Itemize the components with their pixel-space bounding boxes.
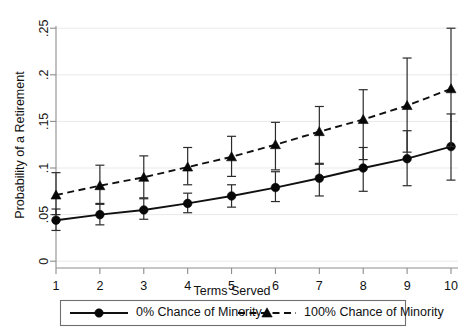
chart-legend: 0% Chance of Minority 100% Chance of Min… xyxy=(61,301,445,326)
x-tick-label: 3 xyxy=(140,279,147,293)
chart-canvas: .25 .2 .15 .1 .05 0 Probability of a Ret… xyxy=(0,0,470,336)
legend-item-1[interactable]: 100% Chance of Minority xyxy=(238,305,444,319)
y-tick-label: .05 xyxy=(37,206,51,223)
y-tick-labels: .25 .2 .15 .1 .05 0 xyxy=(37,19,51,264)
y-tick-label: .2 xyxy=(37,70,51,80)
x-tick-label: 2 xyxy=(96,279,103,293)
legend-circle-marker-icon xyxy=(95,309,103,317)
data-point-triangle xyxy=(227,152,237,161)
y-axis-title: Probability of a Retirement xyxy=(13,71,27,219)
series-solid xyxy=(52,114,456,231)
x-axis-title: Terms Served xyxy=(193,284,270,298)
x-tick-label: 9 xyxy=(404,279,411,293)
data-point-triangle xyxy=(446,84,456,93)
x-tick-label: 7 xyxy=(316,279,323,293)
x-tick-label: 8 xyxy=(360,279,367,293)
data-point-circle xyxy=(271,183,280,192)
x-tick-label: 4 xyxy=(184,279,191,293)
data-point-circle xyxy=(227,192,236,201)
data-point-circle xyxy=(52,216,61,225)
y-tick-label: 0 xyxy=(37,258,51,265)
chart-figure: .25 .2 .15 .1 .05 0 Probability of a Ret… xyxy=(0,0,470,336)
y-tick-label: .15 xyxy=(37,113,51,130)
data-point-triangle xyxy=(270,140,280,149)
y-tick-label: .25 xyxy=(37,19,51,36)
data-point-circle xyxy=(183,199,192,208)
data-point-circle xyxy=(96,210,105,219)
gridlines xyxy=(56,28,458,261)
legend-item-0[interactable]: 0% Chance of Minority xyxy=(70,305,263,319)
data-point-circle xyxy=(139,206,148,215)
y-axis xyxy=(50,26,56,268)
data-point-triangle xyxy=(314,127,324,136)
x-tick-label: 1 xyxy=(53,279,60,293)
x-tick-label: 10 xyxy=(444,279,458,293)
x-tick-label: 6 xyxy=(272,279,279,293)
legend-label-1: 100% Chance of Minority xyxy=(304,305,444,319)
data-point-circle xyxy=(359,164,368,173)
series-line xyxy=(56,89,451,195)
data-point-triangle xyxy=(358,115,368,124)
series-layer xyxy=(51,28,456,230)
data-point-circle xyxy=(403,154,412,163)
data-point-circle xyxy=(315,174,324,183)
y-tick-label: .1 xyxy=(37,163,51,173)
x-tick-marks xyxy=(56,268,451,274)
data-point-triangle xyxy=(402,101,412,110)
